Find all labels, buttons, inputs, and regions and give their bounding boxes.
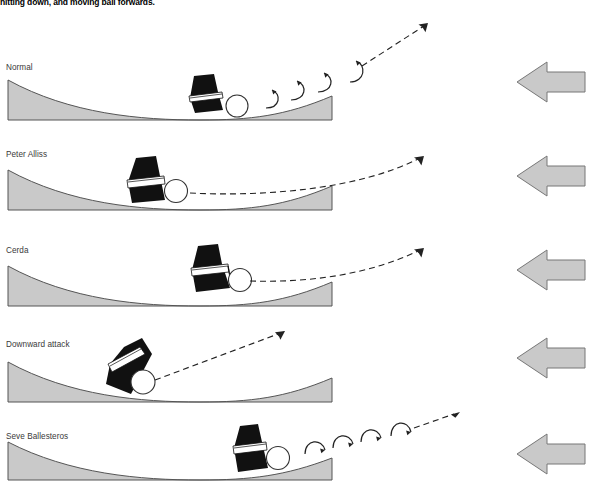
spin-arrow-group: [266, 61, 363, 108]
left-arrow-icon: [517, 434, 585, 474]
panel-normal-diagram: [0, 10, 590, 125]
terrain-shape: [8, 80, 332, 120]
left-arrow-icon: [517, 338, 585, 378]
panel-peter-alliss-diagram: [0, 142, 590, 237]
golf-club-head: [191, 244, 232, 292]
terrain-shape: [8, 362, 332, 402]
panel-cerda-diagram: [0, 238, 590, 330]
golf-ball: [131, 370, 155, 394]
panel-downward-attack: Downward attack: [0, 322, 590, 417]
golf-ball: [226, 95, 248, 117]
left-arrow-icon: [517, 156, 585, 196]
panel-peter-alliss: Peter Alliss: [0, 142, 590, 237]
panel-downward-attack-diagram: [0, 322, 590, 417]
panel-normal: Normal: [0, 10, 590, 125]
spin-arrow-group: [305, 423, 411, 454]
left-arrow-icon: [517, 250, 585, 290]
panel-seve-ballesteros-diagram: [0, 412, 590, 495]
golf-ball: [165, 180, 188, 203]
golf-club-head: [189, 74, 223, 113]
golf-ball: [229, 269, 252, 292]
golf-club-head: [127, 156, 165, 203]
ball-trajectory: [190, 156, 424, 194]
panel-cerda: Cerda: [0, 238, 590, 330]
ball-trajectory: [250, 248, 424, 281]
panel-seve-ballesteros: Seve Ballesteros: [0, 412, 590, 495]
golf-club-head: [233, 424, 268, 472]
ball-trajectory: [362, 23, 428, 66]
golf-ball: [267, 447, 290, 470]
terrain-shape: [8, 266, 332, 306]
page-title: hitting down, and moving ball forwards.: [0, 0, 155, 7]
ball-trajectory: [414, 412, 460, 428]
ball-trajectory: [155, 331, 285, 380]
